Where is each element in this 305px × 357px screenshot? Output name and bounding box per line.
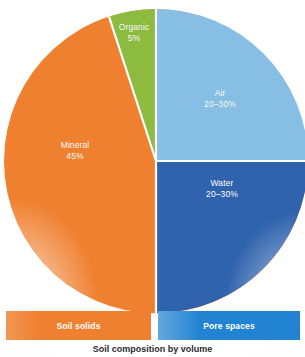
pie-chart: Mineral 45% Organic 5% Air 20–30% Water … <box>0 0 305 345</box>
category-bars: Soil solids Pore spaces <box>0 311 305 340</box>
figure-root: Mineral 45% Organic 5% Air 20–30% Water … <box>0 0 305 357</box>
category-bar-pore-spaces-label: Pore spaces <box>203 321 255 331</box>
pie-slice-air <box>156 9 305 161</box>
category-bar-soil-solids: Soil solids <box>6 311 151 340</box>
pie-chart-svg <box>0 0 305 345</box>
category-bar-soil-solids-label: Soil solids <box>56 321 100 331</box>
category-bar-pore-spaces: Pore spaces <box>158 311 300 340</box>
figure-caption: Soil composition by volume <box>0 344 305 357</box>
